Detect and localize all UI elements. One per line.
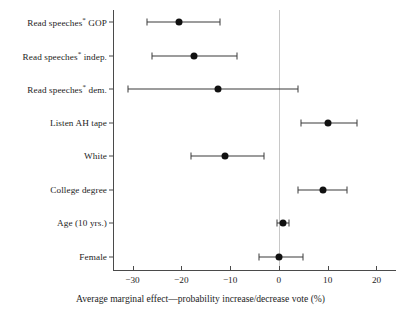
confidence-interval-cap-low — [191, 153, 192, 160]
x-axis-title: Average marginal effect—probability incr… — [0, 293, 401, 304]
x-axis-tick-label: −10 — [223, 275, 237, 285]
y-axis-tick — [109, 22, 113, 23]
x-axis-tick-label: 20 — [372, 275, 381, 285]
confidence-interval-cap-high — [356, 119, 357, 126]
x-axis-tick-label: 10 — [323, 275, 332, 285]
y-axis-tick — [109, 89, 113, 90]
x-axis-tick — [328, 266, 329, 270]
confidence-interval-cap-high — [288, 220, 289, 227]
confidence-interval-cap-high — [347, 186, 348, 193]
y-axis-category-label: Read speeches* dem. — [27, 83, 107, 95]
confidence-interval-cap-high — [264, 153, 265, 160]
x-axis-tick — [181, 266, 182, 270]
confidence-interval-cap-low — [152, 52, 153, 59]
x-axis-tick — [279, 266, 280, 270]
estimate-point-marker — [324, 119, 331, 126]
y-axis-tick — [109, 55, 113, 56]
y-axis-category-label: Read speeches* GOP — [27, 16, 107, 28]
y-axis-category-label: Age (10 yrs.) — [57, 218, 107, 228]
y-axis-tick — [109, 223, 113, 224]
confidence-interval-cap-low — [300, 119, 301, 126]
zero-reference-line — [279, 10, 280, 270]
y-axis-category-label: Female — [79, 252, 107, 262]
estimate-point-marker — [319, 186, 326, 193]
confidence-interval-cap-low — [127, 86, 128, 93]
estimate-point-marker — [190, 52, 197, 59]
x-axis-tick-label: −30 — [125, 275, 139, 285]
x-axis-tick — [133, 266, 134, 270]
estimate-point-marker — [279, 220, 286, 227]
y-axis-tick — [109, 189, 113, 190]
estimate-point-marker — [214, 86, 221, 93]
y-axis-category-label: Listen AH tape — [50, 118, 107, 128]
x-axis-spine — [113, 270, 396, 271]
confidence-interval-cap-low — [276, 220, 277, 227]
confidence-interval-cap-high — [220, 19, 221, 26]
x-axis-tick-label: 0 — [277, 275, 282, 285]
confidence-interval-cap-high — [237, 52, 238, 59]
confidence-interval-cap-low — [298, 186, 299, 193]
estimate-point-marker — [222, 153, 229, 160]
confidence-interval-cap-high — [298, 86, 299, 93]
x-axis-tick-label: −20 — [174, 275, 188, 285]
estimate-point-marker — [275, 253, 282, 260]
confidence-interval-line — [147, 22, 220, 23]
x-axis-tick — [230, 266, 231, 270]
confidence-interval-line — [128, 89, 299, 90]
x-axis-tick — [376, 266, 377, 270]
y-axis-tick — [109, 256, 113, 257]
confidence-interval-cap-high — [303, 253, 304, 260]
y-axis-category-label: Read speeches* indep. — [23, 49, 107, 61]
plot-area — [113, 10, 396, 270]
y-axis-spine — [113, 10, 114, 270]
coefficient-plot-figure: Average marginal effect—probability incr… — [0, 0, 401, 315]
y-axis-category-label: College degree — [50, 185, 107, 195]
estimate-point-marker — [175, 19, 182, 26]
y-axis-tick — [109, 122, 113, 123]
confidence-interval-cap-low — [147, 19, 148, 26]
y-axis-tick — [109, 156, 113, 157]
y-axis-category-label: White — [84, 151, 107, 161]
confidence-interval-cap-low — [259, 253, 260, 260]
